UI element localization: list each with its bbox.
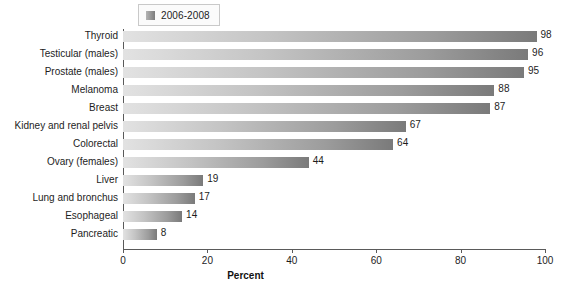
category-label: Prostate (males) <box>0 66 118 77</box>
bar <box>123 193 195 204</box>
bar-value-label: 64 <box>397 137 408 148</box>
x-axis-tick <box>545 249 546 253</box>
plot-area: 98969588876764441917148 <box>123 31 545 247</box>
bar <box>123 103 490 114</box>
category-label: Esophageal <box>0 210 118 221</box>
category-label: Kidney and renal pelvis <box>0 120 118 131</box>
bar-row: 14 <box>123 211 545 222</box>
bar <box>123 49 528 60</box>
bar-value-label: 98 <box>541 29 552 40</box>
chart-legend: 2006-2008 <box>138 4 220 26</box>
bar-value-label: 96 <box>532 47 543 58</box>
bar <box>123 211 182 222</box>
bar-value-label: 87 <box>494 101 505 112</box>
bar-value-label: 17 <box>199 191 210 202</box>
x-axis-tick <box>123 249 124 253</box>
bar-row: 64 <box>123 139 545 150</box>
legend-item-label: 2006-2008 <box>161 10 210 21</box>
category-label: Testicular (males) <box>0 48 118 59</box>
bar-row: 95 <box>123 67 545 78</box>
bar-chart: 2006-2008 ThyroidTesticular (males)Prost… <box>0 0 577 292</box>
bar <box>123 157 309 168</box>
bar <box>123 121 406 132</box>
x-axis-tick-label: 0 <box>120 255 126 266</box>
x-axis-tick-label: 100 <box>537 255 554 266</box>
category-label: Colorectal <box>0 138 118 149</box>
x-axis-title: Percent <box>0 270 577 281</box>
bar <box>123 139 393 150</box>
bar-row: 44 <box>123 157 545 168</box>
bar <box>123 67 524 78</box>
category-label: Pancreatic <box>0 228 118 239</box>
bar-row: 67 <box>123 121 545 132</box>
bar <box>123 85 494 96</box>
bar-value-label: 19 <box>207 173 218 184</box>
x-axis-tick <box>207 249 208 253</box>
category-label: Melanoma <box>0 84 118 95</box>
bar-value-label: 67 <box>410 119 421 130</box>
bar-row: 17 <box>123 193 545 204</box>
legend-swatch-icon <box>146 11 155 20</box>
bar-value-label: 8 <box>161 227 167 238</box>
category-label: Thyroid <box>0 30 118 41</box>
x-axis-title-text: Percent <box>227 270 264 281</box>
x-axis-tick-label: 60 <box>371 255 382 266</box>
x-axis-line <box>123 249 546 250</box>
bar <box>123 31 537 42</box>
bar-value-label: 95 <box>528 65 539 76</box>
bar-row: 88 <box>123 85 545 96</box>
bar <box>123 175 203 186</box>
bar-row: 87 <box>123 103 545 114</box>
bar-value-label: 44 <box>313 155 324 166</box>
x-axis-tick <box>292 249 293 253</box>
x-axis-tick-label: 20 <box>202 255 213 266</box>
category-label: Breast <box>0 102 118 113</box>
bar-row: 96 <box>123 49 545 60</box>
bar-row: 19 <box>123 175 545 186</box>
bar <box>123 229 157 240</box>
category-label: Lung and bronchus <box>0 192 118 203</box>
x-axis-tick <box>461 249 462 253</box>
bar-row: 8 <box>123 229 545 240</box>
y-axis-category-labels: ThyroidTesticular (males)Prostate (males… <box>0 31 118 247</box>
x-axis-tick <box>376 249 377 253</box>
category-label: Ovary (females) <box>0 156 118 167</box>
bar-value-label: 14 <box>186 209 197 220</box>
bar-row: 98 <box>123 31 545 42</box>
x-axis-tick-label: 40 <box>286 255 297 266</box>
category-label: Liver <box>0 174 118 185</box>
x-axis-tick-label: 80 <box>455 255 466 266</box>
bar-value-label: 88 <box>498 83 509 94</box>
